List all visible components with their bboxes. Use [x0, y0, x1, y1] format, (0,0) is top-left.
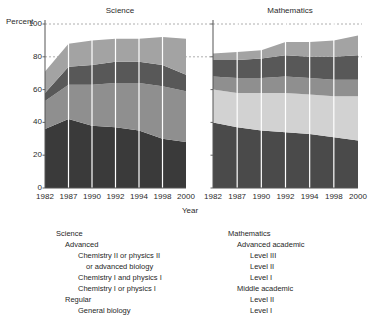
legend-group-science-regular: Regular: [65, 294, 162, 305]
legend-mathematics: Mathematics Advanced academic Level III …: [228, 228, 305, 316]
x-tick-label: 1982: [204, 192, 222, 201]
legend-item-math-adv-level-2: Level II: [250, 261, 305, 272]
chart-figure: Science Mathematics Percent 100806040200…: [0, 0, 375, 333]
x-tick-label: 1998: [325, 192, 343, 201]
x-tick-label: 2000: [177, 192, 195, 201]
x-tick-label: 1994: [301, 192, 319, 201]
x-tick-label: 1994: [130, 192, 148, 201]
legend-heading-mathematics: Mathematics: [228, 228, 305, 239]
x-tick-label: 1990: [83, 192, 101, 201]
legend-item-science-general-biology: General biology: [78, 305, 162, 316]
x-tick-label: 1982: [36, 192, 54, 201]
legend-group-science-advanced: Advanced: [65, 239, 162, 250]
x-tick-label: 1998: [154, 192, 172, 201]
legend-item-math-mid-level-2: Level II: [250, 294, 305, 305]
legend-item-math-mid-level-1: Level I: [250, 305, 305, 316]
legend-item-science-chem1-or: Chemistry I or physics I: [78, 283, 162, 294]
legend-item-math-adv-level-3: Level III: [250, 250, 305, 261]
legend-item-math-adv-level-1: Level I: [250, 272, 305, 283]
x-tick-label: 1992: [107, 192, 125, 201]
legend-group-math-middle: Middle academic: [237, 283, 305, 294]
legend-item-science-chem2: Chemistry II or physics II: [78, 250, 162, 261]
legend-science: Science Advanced Chemistry II or physics…: [56, 228, 162, 316]
legend-item-science-chem2-cont: or advanced biology: [86, 261, 162, 272]
x-tick-label: 1990: [252, 192, 270, 201]
legend-heading-science: Science: [56, 228, 162, 239]
x-axis-title: Year: [150, 206, 230, 215]
x-tick-label: 1987: [60, 192, 78, 201]
x-tick-label: 2000: [349, 192, 367, 201]
x-tick-label: 1992: [277, 192, 295, 201]
x-tick-label: 1987: [228, 192, 246, 201]
legend-item-science-chem1-and: Chemistry I and physics I: [78, 272, 162, 283]
legend-group-math-advanced: Advanced academic: [237, 239, 305, 250]
